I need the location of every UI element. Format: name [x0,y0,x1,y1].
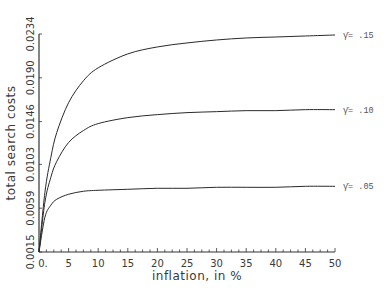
y-tick-label: 0.0234 [25,17,36,52]
series-label: γ̄= .10 [343,106,374,116]
y-tick-label: 0.0146 [25,104,36,139]
x-tick-label: 15 [121,258,134,269]
x-tick-label: 35 [240,258,253,269]
line-chart: 0.51015202530354045500.00150.00590.01030… [0,0,388,293]
x-tick-label: 25 [181,258,194,269]
series-label: γ̄= .05 [343,182,374,192]
series-line [39,186,335,252]
x-tick-label: 10 [92,258,105,269]
x-tick-label: 5 [65,258,71,269]
x-tick-label: 0. [38,258,48,269]
x-tick-label: 45 [299,258,312,269]
x-tick-label: 40 [269,258,282,269]
y-tick-label: 0.0059 [25,191,36,226]
series-line [39,35,335,252]
series-line [39,110,335,252]
x-tick-label: 20 [151,258,164,269]
x-tick-label: 50 [329,258,342,269]
y-axis-title: total search costs [4,85,18,200]
x-axis-title: inflation, in % [152,269,242,283]
y-tick-label: 0.0015 [25,235,36,270]
x-tick-label: 30 [210,258,223,269]
y-tick-label: 0.0190 [25,60,36,95]
series-label: γ̄= .15 [343,31,374,41]
y-tick-label: 0.0103 [25,147,36,182]
